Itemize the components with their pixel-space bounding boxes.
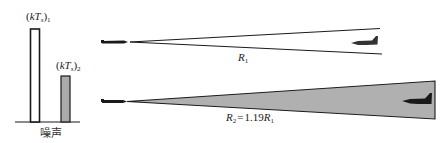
beam-shaded-region xyxy=(127,81,435,119)
target-aircraft-icon-top xyxy=(351,36,378,45)
noise-axis-label: 噪声 xyxy=(40,126,62,140)
range-r1-panel: R1 xyxy=(101,29,382,66)
noise-bar-2-label: (kTs)2 xyxy=(56,59,81,73)
range-r1-label: R1 xyxy=(237,51,249,65)
radar-aircraft-icon-bottom xyxy=(101,99,127,103)
noise-bar-1 xyxy=(31,29,40,122)
range-r2-label: R2=1.19R1 xyxy=(225,111,274,125)
noise-bar-1-label: (kTs)1 xyxy=(26,10,51,24)
noise-bar-panel: (kTs)1 (kTs)2 噪声 xyxy=(15,10,81,140)
beam-lower-edge xyxy=(130,42,382,54)
radar-range-noise-diagram: (kTs)1 (kTs)2 噪声 R1 R2=1.19R1 xyxy=(0,0,448,143)
radar-aircraft-icon-top xyxy=(101,40,128,44)
noise-bar-2 xyxy=(61,76,70,122)
beam-upper-edge xyxy=(130,29,380,43)
range-r2-panel: R2=1.19R1 xyxy=(101,81,435,125)
